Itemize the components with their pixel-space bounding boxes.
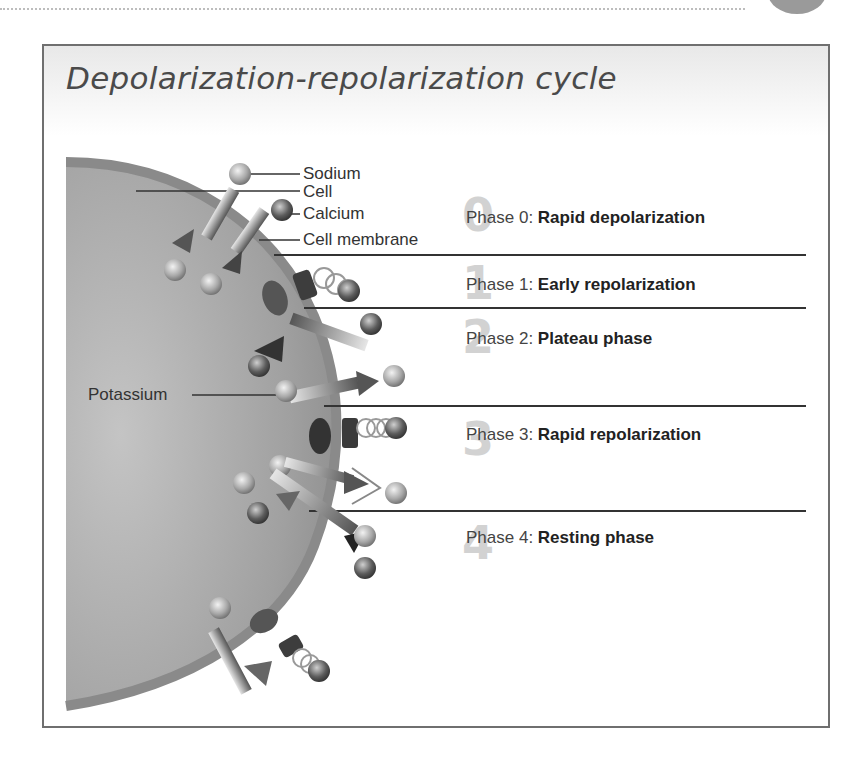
phase-0-prefix: Phase 0:: [466, 208, 533, 227]
phase-1-prefix: Phase 1:: [466, 275, 533, 294]
label-cell-membrane: Cell membrane: [303, 230, 418, 250]
phase-2-name: Plateau phase: [538, 329, 652, 348]
phase-3-label: Phase 3: Rapid repolarization: [466, 425, 701, 445]
label-potassium: Potassium: [88, 385, 167, 405]
label-sodium: Sodium: [303, 164, 361, 184]
corner-tab-circle: [768, 0, 826, 14]
label-calcium: Calcium: [303, 204, 364, 224]
phase-2-label: Phase 2: Plateau phase: [466, 329, 652, 349]
phase-2-prefix: Phase 2:: [466, 329, 533, 348]
cell-body: [66, 162, 337, 706]
top-dotted-rule: [0, 8, 745, 10]
phase-0-name: Rapid depolarization: [538, 208, 705, 227]
phase-4-label: Phase 4: Resting phase: [466, 528, 654, 548]
phase-4-prefix: Phase 4:: [466, 528, 533, 547]
phase-3-name: Rapid repolarization: [538, 425, 701, 444]
label-cell: Cell: [303, 182, 332, 202]
phase-4-name: Resting phase: [538, 528, 654, 547]
phase-1-label: Phase 1: Early repolarization: [466, 275, 696, 295]
phase-0-label: Phase 0: Rapid depolarization: [466, 208, 705, 228]
diagram-frame: Depolarization-repolarization cycle: [42, 44, 830, 728]
phase-3-prefix: Phase 3:: [466, 425, 533, 444]
phase-1-name: Early repolarization: [538, 275, 696, 294]
